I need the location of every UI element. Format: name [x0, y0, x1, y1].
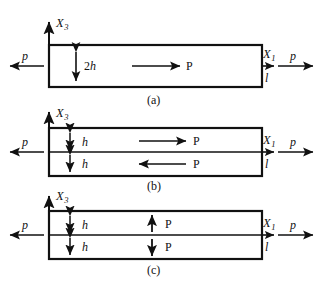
panel-a-axis-x3-label: X3 — [56, 17, 68, 30]
panel-a-axis-x1-label: X1 — [263, 48, 275, 61]
panel-a-caption: (a) — [147, 94, 160, 106]
panel-c-caption: (c) — [147, 264, 160, 276]
panel-b-axis-x1-label: X1 — [263, 134, 275, 147]
panel-c-axis-x3-label: X3 — [56, 190, 68, 203]
panel-c-left-load-label: p — [22, 219, 28, 231]
panel-c-internal-force-upper-label: P — [165, 218, 172, 230]
panel-b-caption: (b) — [147, 180, 161, 192]
panel-b-axis-x3-label: X3 — [56, 107, 68, 120]
figure-container: X3 p p X1 l 2h P (a) X3 p p X1 l h h P P… — [0, 0, 323, 296]
panel-a-length-label: l — [265, 72, 268, 84]
panel-a-internal-force-label: P — [186, 60, 193, 72]
panel-c-internal-force-lower-label: P — [165, 241, 172, 253]
panel-a-right-load-label: p — [290, 50, 296, 62]
panel-b-right-load-label: p — [290, 136, 296, 148]
panel-b-length-label: l — [265, 158, 268, 170]
panel-b-internal-force-upper-label: P — [193, 135, 200, 147]
panel-b-thickness-lower-label: h — [82, 158, 88, 170]
panel-b-left-load-label: p — [22, 136, 28, 148]
panel-c-right-load-label: p — [290, 219, 296, 231]
panel-c-thickness-lower-label: h — [82, 241, 88, 253]
panel-c-axis-x1-label: X1 — [263, 217, 275, 230]
panel-c-length-label: l — [265, 241, 268, 253]
panel-b-internal-force-lower-label: P — [193, 158, 200, 170]
panel-b-thickness-upper-label: h — [82, 136, 88, 148]
panel-a-thickness-label: 2h — [84, 60, 96, 72]
panel-a-left-load-label: p — [22, 50, 28, 62]
panel-c-thickness-upper-label: h — [82, 219, 88, 231]
